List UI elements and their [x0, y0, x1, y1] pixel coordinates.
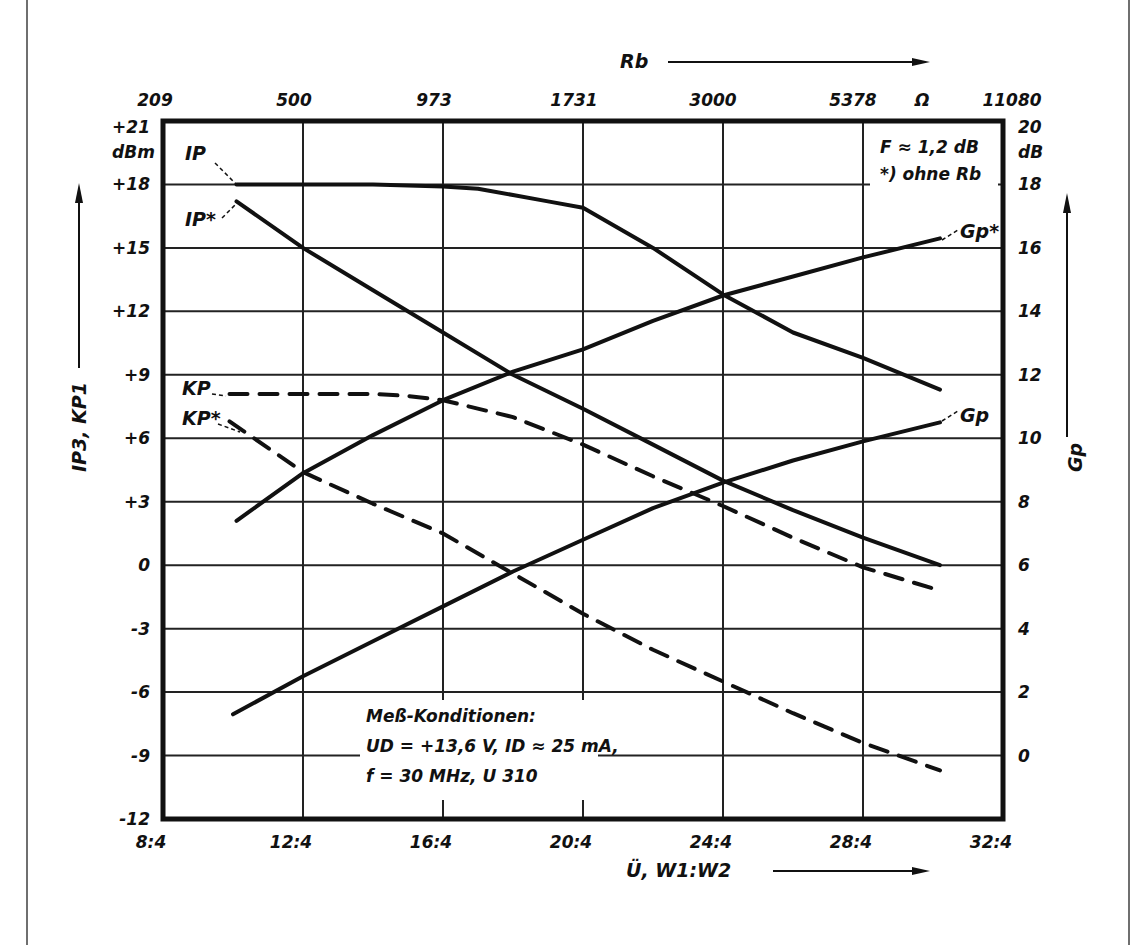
- series-label-leader: [942, 411, 958, 421]
- left-axis-label: IP3, KP1: [68, 382, 90, 472]
- right-tick-label: 10: [1018, 428, 1042, 448]
- series-label-leader: [222, 205, 235, 218]
- left-tick-label: -12: [119, 809, 150, 829]
- top-axis-unit: Ω: [914, 90, 929, 110]
- right-tick-label: 0: [1018, 746, 1030, 766]
- top-tick-label: 209: [137, 90, 173, 110]
- right-tick-label: 20: [1018, 117, 1042, 137]
- right-tick-label: 18: [1018, 174, 1042, 194]
- top-tick-label: 1731: [550, 90, 597, 110]
- right-axis-arrowhead-icon: [1063, 193, 1071, 213]
- series-gp: [233, 422, 940, 714]
- left-axis-arrowhead-icon: [75, 183, 83, 203]
- left-tick-label: 0: [138, 555, 150, 575]
- left-axis-unit: dBm: [112, 142, 155, 162]
- series-label: Gp: [960, 404, 989, 426]
- right-tick-label: 2: [1018, 682, 1030, 702]
- series-label: IP: [185, 142, 206, 164]
- series-label: Gp*: [960, 220, 999, 242]
- top-axis-label: Rb: [620, 50, 648, 72]
- noise-figure-note: F ≈ 1,2 dB: [880, 137, 979, 157]
- left-tick-label: -6: [131, 682, 150, 702]
- top-tick-label: 973: [416, 90, 452, 110]
- footnote-note: *) ohne Rb: [880, 164, 981, 184]
- series-ip-star: [237, 201, 941, 565]
- top-tick-label: 5378: [829, 90, 876, 110]
- x-axis-label: Ü, W1:W2: [626, 858, 731, 881]
- chart: 8:412:416:420:424:428:432:4 209500973173…: [0, 0, 1139, 945]
- right-axis-unit: dB: [1018, 142, 1043, 162]
- conditions-title: Meß-Konditionen:: [366, 706, 536, 726]
- left-tick-label: +9: [124, 365, 150, 385]
- series-label-leader: [212, 394, 226, 396]
- left-tick-label: +15: [112, 238, 150, 258]
- series-label: IP*: [185, 208, 216, 230]
- right-tick-label: 6: [1018, 555, 1030, 575]
- x-tick-labels: 8:412:416:420:424:428:432:4: [136, 832, 1012, 852]
- x-axis-arrowhead-icon: [912, 867, 930, 875]
- series-label: KP: [182, 377, 211, 399]
- series-kp: [230, 394, 941, 591]
- right-tick-label: 16: [1018, 238, 1042, 258]
- x-tick-label: 8:4: [136, 832, 166, 852]
- top-tick-label: 500: [276, 90, 312, 110]
- left-tick-label: +18: [112, 174, 150, 194]
- x-tick-label: 24:4: [690, 832, 732, 852]
- left-tick-label: +6: [124, 428, 150, 448]
- right-tick-label: 8: [1018, 492, 1030, 512]
- left-tick-label: -3: [131, 619, 150, 639]
- right-tick-labels: 20181614121086420: [1017, 117, 1042, 766]
- series-gp-star: [237, 238, 941, 520]
- left-tick-labels: +21+18+15+12+9+6+30-3-6-9-12: [112, 117, 150, 829]
- x-tick-label: 32:4: [970, 832, 1012, 852]
- right-axis-label: Gp: [1064, 443, 1086, 472]
- series-label-leader: [215, 163, 236, 184]
- top-tick-label: 3000: [689, 90, 736, 110]
- right-tick-label: 12: [1018, 365, 1042, 385]
- x-tick-label: 20:4: [550, 832, 592, 852]
- top-tick-labels: 20950097317313000537811080: [137, 90, 1041, 110]
- series-label: KP*: [182, 407, 221, 429]
- x-tick-label: 12:4: [270, 832, 312, 852]
- conditions-line1: UD = +13,6 V, ID ≈ 25 mA,: [366, 736, 619, 756]
- series-label-leader: [942, 230, 958, 240]
- left-tick-label: +21: [112, 117, 150, 137]
- top-tick-label: 11080: [982, 90, 1041, 110]
- x-tick-label: 16:4: [410, 832, 452, 852]
- top-axis-arrowhead-icon: [912, 58, 930, 66]
- x-tick-label: 28:4: [830, 832, 872, 852]
- conditions-line2: f = 30 MHz, U 310: [366, 766, 538, 786]
- left-tick-label: +12: [112, 301, 150, 321]
- left-tick-label: +3: [124, 492, 150, 512]
- right-tick-label: 4: [1017, 619, 1030, 639]
- series-ip: [237, 185, 941, 390]
- right-tick-label: 14: [1018, 301, 1042, 321]
- curves: [230, 185, 941, 771]
- left-tick-label: -9: [131, 746, 150, 766]
